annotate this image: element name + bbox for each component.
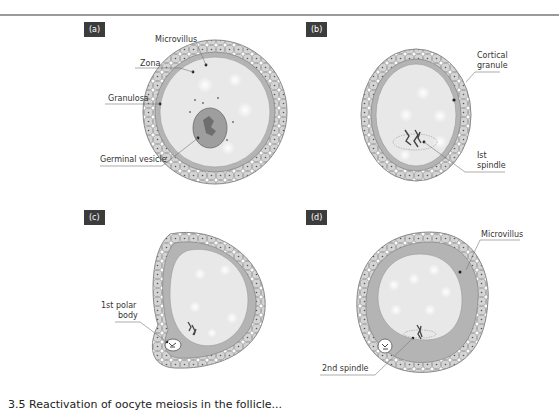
- panel-d-oocyte: [320, 232, 520, 375]
- label-spindle: spindle: [477, 161, 506, 171]
- label-granule: granule: [477, 61, 508, 71]
- figure-caption: 3.5 Reactivation of oocyte meiosis in th…: [8, 398, 282, 411]
- panel-c-oocyte: [115, 232, 265, 368]
- label-microvillus-a: Microvillus: [155, 35, 197, 45]
- panel-c-label: (c): [84, 210, 105, 225]
- label-microvillus-d: Microvillus: [481, 230, 523, 240]
- label-granulosa: Granulosa: [108, 94, 149, 104]
- label-body: body: [118, 311, 138, 321]
- label-germinal-vesicle: Germinal vesicle: [100, 155, 167, 165]
- label-1st-polar: 1st polar: [101, 301, 136, 311]
- label-ist: Ist: [477, 151, 487, 161]
- label-cortical: Cortical: [477, 51, 508, 61]
- label-zona: Zona: [140, 59, 160, 69]
- panel-b-label: (b): [306, 22, 327, 37]
- panel-d-label: (d): [306, 210, 327, 225]
- label-2nd-spindle: 2nd spindle: [322, 364, 369, 374]
- panel-a-label: (a): [84, 22, 105, 37]
